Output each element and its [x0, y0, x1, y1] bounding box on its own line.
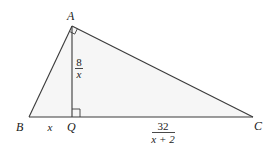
label-AQ-denominator: x — [76, 68, 82, 80]
label-BQ: x — [47, 121, 53, 133]
label-AQ-numerator: 8 — [76, 56, 82, 68]
vertex-label-C: C — [254, 119, 263, 133]
label-QC-fraction: 32 x + 2 — [150, 120, 175, 145]
vertex-label-B: B — [16, 120, 24, 134]
label-QC-numerator: 32 — [158, 120, 169, 132]
triangle-diagram: A B Q C 8 x x 32 x + 2 — [0, 0, 274, 149]
triangle-shading — [29, 26, 253, 117]
label-QC-denominator: x + 2 — [150, 133, 175, 145]
vertex-label-Q: Q — [67, 120, 76, 134]
vertex-label-A: A — [66, 9, 75, 23]
